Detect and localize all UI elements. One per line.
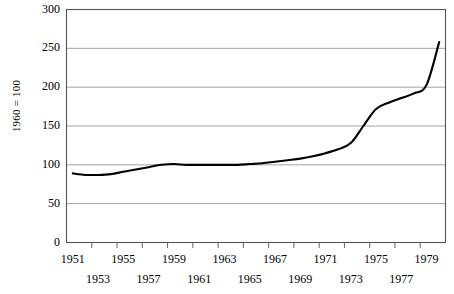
x-tick-label-1951: 1951 — [48, 253, 98, 265]
y-tick-label-100: 100 — [26, 158, 60, 170]
x-tick-label-1959: 1959 — [149, 253, 199, 265]
x-tick-label-1965: 1965 — [225, 273, 275, 285]
y-axis-tick-labels: 300 250 200 150 100 50 0 — [22, 0, 60, 294]
y-tick-label-250: 250 — [26, 41, 60, 53]
x-tick-label-1979: 1979 — [402, 253, 452, 265]
y-tick-label-50: 50 — [26, 197, 60, 209]
y-tick-label-0: 0 — [26, 236, 60, 248]
x-tick-label-1955: 1955 — [98, 253, 148, 265]
x-axis-ticks — [92, 243, 420, 249]
chart-container: 1960 = 100 300 250 200 150 100 50 0 1951… — [0, 0, 454, 294]
gridlines — [67, 48, 446, 203]
x-tick-label-1961: 1961 — [174, 273, 224, 285]
x-tick-label-1967: 1967 — [250, 253, 300, 265]
plot-area — [0, 0, 454, 294]
x-tick-label-1975: 1975 — [351, 253, 401, 265]
data-line-index — [73, 42, 439, 175]
x-tick-label-1953: 1953 — [73, 273, 123, 285]
x-tick-label-1977: 1977 — [376, 273, 426, 285]
y-axis-title: 1960 = 100 — [10, 46, 22, 166]
x-tick-label-1969: 1969 — [275, 273, 325, 285]
x-tick-label-1963: 1963 — [199, 253, 249, 265]
y-tick-label-200: 200 — [26, 80, 60, 92]
x-tick-label-1971: 1971 — [300, 253, 350, 265]
y-tick-label-300: 300 — [26, 3, 60, 15]
x-tick-label-1973: 1973 — [326, 273, 376, 285]
y-tick-label-150: 150 — [26, 119, 60, 131]
x-tick-label-1957: 1957 — [124, 273, 174, 285]
